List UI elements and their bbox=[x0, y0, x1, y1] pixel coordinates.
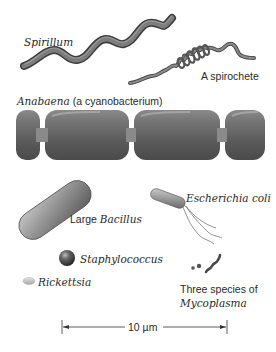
bacillus-label-prefix: Large bbox=[70, 213, 100, 225]
bacillus-cell bbox=[13, 175, 96, 245]
rickettsia-label: Rickettsia bbox=[38, 277, 91, 288]
staphylococcus-label: Staphylococcus bbox=[80, 254, 163, 265]
scale-bar-label: 10 µm bbox=[128, 322, 157, 333]
ecoli-label: Escherichia coli bbox=[186, 193, 271, 204]
anabaena-filament bbox=[16, 110, 265, 160]
staphylococcus-cell bbox=[59, 250, 75, 266]
mycoplasma-label-line1: Three species of bbox=[180, 284, 258, 295]
anabaena-label: Anabaena (a cyanobacterium) bbox=[17, 96, 163, 107]
spirillum-label: Spirillum bbox=[24, 37, 73, 48]
bacillus-label: Large Bacillus bbox=[70, 214, 142, 225]
mycoplasma-cells bbox=[191, 255, 220, 272]
bacillus-label-genus: Bacillus bbox=[100, 213, 142, 225]
mycoplasma-label-line2: Mycoplasma bbox=[180, 298, 247, 309]
spirochete-label: A spirochete bbox=[201, 71, 259, 82]
rickettsia-cell bbox=[23, 278, 35, 285]
bacteria-size-diagram: Spirillum A spirochete Anabaena (a cyano… bbox=[0, 0, 276, 352]
anabaena-label-desc: (a cyanobacterium) bbox=[70, 95, 163, 107]
anabaena-label-genus: Anabaena bbox=[17, 95, 70, 107]
